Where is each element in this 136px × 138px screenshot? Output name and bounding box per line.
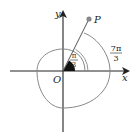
- point-p-label: P: [93, 14, 101, 25]
- y-axis-label: y: [54, 8, 61, 19]
- large-angle-denominator: 3: [113, 54, 118, 63]
- origin-label: O: [53, 74, 61, 85]
- polar-angle-diagram: y x O P π 3 7π 3: [0, 0, 136, 138]
- point-p: [86, 16, 91, 21]
- large-angle-numerator: 7π: [111, 44, 121, 53]
- small-angle-numerator: π: [72, 52, 77, 60]
- x-axis-label: x: [122, 72, 128, 83]
- small-angle-denominator: 3: [72, 61, 76, 69]
